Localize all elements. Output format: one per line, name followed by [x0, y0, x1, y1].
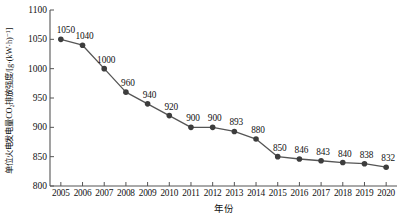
data-point-label: 1000 — [97, 55, 115, 65]
data-point — [210, 125, 216, 131]
data-point — [123, 89, 129, 95]
data-point-label: 840 — [338, 149, 352, 159]
data-point-label: 893 — [230, 117, 244, 127]
data-point — [101, 66, 107, 72]
data-point — [232, 129, 238, 135]
data-point-label: 843 — [316, 147, 330, 157]
data-point-label: 1050 — [57, 25, 75, 35]
data-point — [340, 160, 346, 166]
data-point-label: 850 — [273, 143, 287, 153]
data-point — [275, 154, 281, 160]
data-point-label: 880 — [251, 125, 265, 135]
y-axis-ticks — [50, 10, 54, 186]
data-point — [188, 125, 194, 131]
chart-container: 单位火电发电量CO₂排放强度/[g·(kW·h)⁻¹] 800 850 900 … — [0, 0, 405, 220]
data-point-label: 900 — [186, 113, 200, 123]
data-point-label: 940 — [143, 90, 157, 100]
x-axis-title: 年份 — [50, 201, 398, 215]
data-point-label: 920 — [164, 102, 178, 112]
data-point — [362, 161, 368, 167]
data-point — [166, 113, 172, 119]
x-tick-label: 2020 — [371, 188, 401, 198]
data-point — [253, 136, 259, 142]
data-point — [58, 37, 64, 43]
data-point — [80, 42, 86, 48]
data-point-label: 900 — [208, 113, 222, 123]
data-point-label: 960 — [121, 78, 135, 88]
data-point — [145, 101, 151, 107]
data-point — [383, 164, 389, 170]
data-point-label: 846 — [295, 145, 309, 155]
data-point-label: 838 — [360, 150, 374, 160]
x-axis-ticks — [61, 182, 386, 186]
data-point — [318, 158, 324, 164]
data-point-label: 1040 — [75, 31, 93, 41]
data-point-label: 832 — [381, 153, 395, 163]
axes-spines — [50, 10, 397, 186]
data-point — [297, 156, 303, 162]
